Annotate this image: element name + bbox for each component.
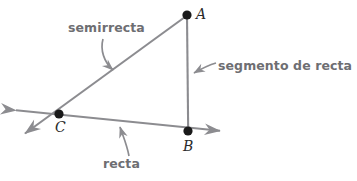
point-c-dot bbox=[54, 109, 63, 118]
callout-label-recta: recta bbox=[103, 156, 140, 171]
geometry-diagram: A B C semirrecta segmento de recta recta bbox=[0, 0, 357, 181]
point-label-a: A bbox=[196, 6, 206, 22]
callout-arrow-recta bbox=[120, 127, 129, 156]
point-b-dot bbox=[183, 126, 192, 135]
point-label-b: B bbox=[183, 138, 193, 154]
callout-label-segmento-de-recta: segmento de recta bbox=[218, 58, 352, 73]
callout-arrow-segmento bbox=[194, 63, 216, 73]
callout-label-semirrecta: semirrecta bbox=[68, 20, 145, 35]
callout-arrow-semirrecta bbox=[102, 39, 113, 70]
point-a-dot bbox=[182, 10, 191, 19]
figure-segment-ab bbox=[187, 16, 188, 132]
geometry-canvas bbox=[0, 0, 357, 181]
point-label-c: C bbox=[55, 119, 66, 135]
